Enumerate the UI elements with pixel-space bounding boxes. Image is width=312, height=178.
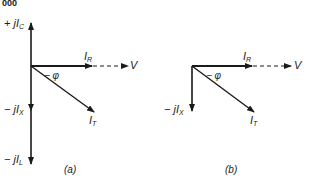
jix-arrowhead	[28, 104, 34, 111]
caption-b: (b)	[225, 164, 237, 175]
page-header: 000	[2, 0, 17, 8]
phi-label: − φ	[44, 70, 60, 81]
it-vector	[31, 66, 94, 112]
diagram-b: IR V − φ − jIX IT (b)	[164, 50, 303, 175]
jix-label: − jIX	[164, 103, 184, 116]
v-label: V	[294, 59, 303, 71]
jil-label: − jIL	[4, 153, 23, 166]
caption-a: (a)	[64, 164, 76, 175]
phi-label: − φ	[206, 70, 222, 81]
v-label: V	[130, 59, 139, 71]
jix-label: − jIX	[4, 103, 24, 116]
it-label: IT	[89, 114, 97, 127]
diagram-a: + jIC IR V − φ − jIX IT − jIL (a)	[4, 17, 139, 175]
it-label: IT	[250, 114, 258, 127]
ir-label: IR	[84, 50, 92, 63]
it-vector	[192, 66, 254, 112]
jic-label: + jIC	[4, 17, 25, 30]
phasor-diagrams: 000 + jIC IR V − φ − jIX IT − jIL (a)	[0, 0, 312, 178]
ir-label: IR	[243, 50, 251, 63]
